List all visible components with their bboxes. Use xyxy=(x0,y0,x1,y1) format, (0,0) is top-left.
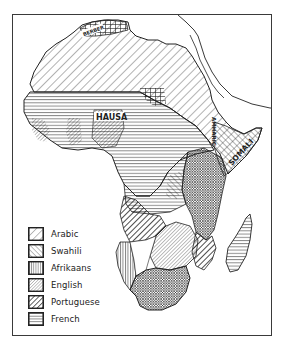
map-legend: Arabic Swahili Afrikaans English Portugu… xyxy=(28,225,100,327)
arabic-pattern-swatch xyxy=(28,227,44,241)
label-amharic: AMHARIC xyxy=(211,117,217,146)
legend-item-portuguese: Portuguese xyxy=(28,293,100,310)
legend-label: Swahili xyxy=(51,246,82,256)
label-hausa: HAUSA xyxy=(94,112,128,122)
afrikaans-pattern-swatch xyxy=(28,261,44,275)
legend-label: Afrikaans xyxy=(51,263,91,273)
english-pattern-swatch xyxy=(28,278,44,292)
legend-label: Arabic xyxy=(51,229,79,239)
legend-item-english: English xyxy=(28,276,100,293)
portuguese-pattern-swatch xyxy=(28,295,44,309)
legend-item-swahili: Swahili xyxy=(28,242,100,259)
legend-label: French xyxy=(51,314,80,324)
legend-label: Portuguese xyxy=(51,297,100,307)
legend-item-french: French xyxy=(28,310,100,327)
french-pattern-swatch xyxy=(28,312,44,326)
svg-text:AMHARIC: AMHARIC xyxy=(211,117,217,146)
region-madagascar xyxy=(226,214,252,272)
swahili-pattern-swatch xyxy=(28,244,44,258)
svg-text:HAUSA: HAUSA xyxy=(96,113,128,122)
legend-item-afrikaans: Afrikaans xyxy=(28,259,100,276)
legend-label: English xyxy=(51,280,82,290)
legend-item-arabic: Arabic xyxy=(28,225,100,242)
